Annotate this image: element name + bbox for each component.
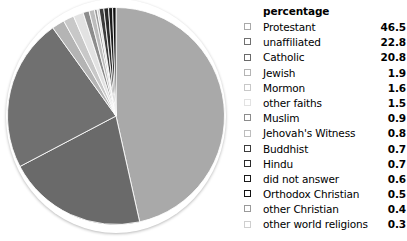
legend-swatch-icon xyxy=(244,130,251,137)
legend-value: 0.8 xyxy=(388,127,406,139)
legend-value: 46.5 xyxy=(380,21,406,33)
legend-item[interactable]: Buddhist0.7 xyxy=(240,142,407,157)
legend-row-list: Protestant46.5unaffiliated22.8Catholic20… xyxy=(240,20,407,233)
legend-swatch-icon xyxy=(244,160,251,167)
legend-value: 22.8 xyxy=(380,36,406,48)
legend-item[interactable]: other world religions0.3 xyxy=(240,217,407,232)
legend-value: 0.7 xyxy=(388,143,406,155)
legend-item[interactable]: Hindu0.7 xyxy=(240,157,407,172)
legend-swatch-icon xyxy=(244,69,251,76)
pie-chart xyxy=(0,0,228,241)
legend-swatch-icon xyxy=(244,205,251,212)
legend-item[interactable]: Jewish1.9 xyxy=(240,66,407,81)
legend-label: other Christian xyxy=(263,203,339,215)
legend-label: Orthodox Christian xyxy=(263,188,359,200)
legend-item[interactable]: Orthodox Christian0.5 xyxy=(240,187,407,202)
legend-swatch-icon xyxy=(244,145,251,152)
legend-header: percentage xyxy=(263,5,329,17)
legend-swatch-icon xyxy=(244,38,251,45)
legend-label: Jewish xyxy=(263,67,295,79)
legend-value: 0.5 xyxy=(388,188,406,200)
legend-label: Muslim xyxy=(263,112,299,124)
legend-item[interactable]: Mormon1.6 xyxy=(240,81,407,96)
legend-value: 1.5 xyxy=(388,97,406,109)
legend-value: 0.4 xyxy=(388,203,406,215)
legend-label: Protestant xyxy=(263,21,316,33)
legend-item[interactable]: Muslim0.9 xyxy=(240,111,407,126)
legend-item[interactable]: unaffiliated22.8 xyxy=(240,35,407,50)
legend-swatch-icon xyxy=(244,114,251,121)
legend-value: 1.6 xyxy=(388,82,406,94)
legend-value: 0.9 xyxy=(388,112,406,124)
legend-value: 0.7 xyxy=(388,158,406,170)
legend-value: 0.6 xyxy=(388,173,406,185)
legend-label: other faiths xyxy=(263,97,322,109)
legend-item[interactable]: other faiths1.5 xyxy=(240,96,407,111)
legend-label: Buddhist xyxy=(263,143,308,155)
legend-label: unaffiliated xyxy=(263,36,321,48)
legend: percentage Protestant46.5unaffiliated22.… xyxy=(240,0,407,241)
legend-value: 0.3 xyxy=(388,218,406,230)
pie-slices xyxy=(6,0,226,233)
legend-swatch-icon xyxy=(244,99,251,106)
legend-value: 20.8 xyxy=(380,51,406,63)
pie-chart-figure: percentage Protestant46.5unaffiliated22.… xyxy=(0,0,407,241)
legend-item[interactable]: Jehovah's Witness0.8 xyxy=(240,126,407,141)
legend-swatch-icon xyxy=(244,54,251,61)
legend-item[interactable]: other Christian0.4 xyxy=(240,202,407,217)
legend-swatch-icon xyxy=(244,84,251,91)
legend-label: Catholic xyxy=(263,51,304,63)
legend-swatch-icon xyxy=(244,175,251,182)
legend-swatch-icon xyxy=(244,221,251,228)
legend-item[interactable]: Catholic20.8 xyxy=(240,50,407,65)
legend-label: other world religions xyxy=(263,218,368,230)
legend-value: 1.9 xyxy=(388,67,406,79)
legend-label: Jehovah's Witness xyxy=(263,127,355,139)
legend-swatch-icon xyxy=(244,190,251,197)
legend-item[interactable]: did not answer0.6 xyxy=(240,172,407,187)
legend-label: did not answer xyxy=(263,173,339,185)
legend-item[interactable]: Protestant46.5 xyxy=(240,20,407,35)
legend-label: Hindu xyxy=(263,158,293,170)
legend-label: Mormon xyxy=(263,82,305,94)
legend-swatch-icon xyxy=(244,23,251,30)
